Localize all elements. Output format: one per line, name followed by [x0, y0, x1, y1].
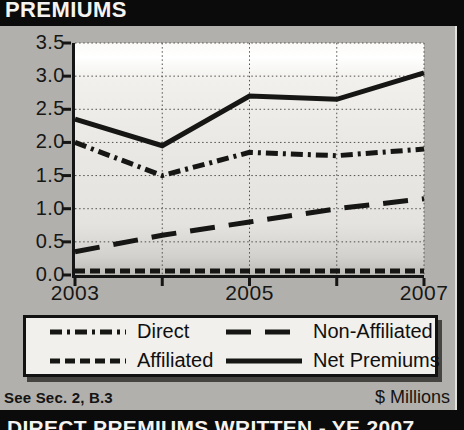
y-axis-labels: 0.00.51.01.52.02.53.03.5	[0, 43, 70, 278]
plot-area	[72, 43, 424, 278]
legend-item-affiliated: Affiliated	[26, 349, 222, 372]
y-tick-label: 2.5	[36, 97, 65, 120]
x-tick-label: 2007	[400, 281, 449, 305]
legend-label-affiliated: Affiliated	[137, 349, 213, 372]
scan-edge	[457, 0, 464, 430]
y-tick-label: 1.5	[36, 164, 65, 187]
top-title-bar: PREMIUMS	[0, 0, 464, 26]
y-tick-label: 2.0	[36, 130, 65, 153]
chart-legend: Direct Non-Affiliated Affiliated Net Pre…	[23, 315, 438, 377]
scanned-chart-page: PREMIUMS 0.00.51.01.52.02.53.03.5 200320…	[0, 0, 464, 430]
page-title: PREMIUMS	[5, 0, 127, 23]
affiliated-line-sample-icon	[48, 356, 128, 366]
legend-label-direct: Direct	[137, 320, 189, 343]
y-tick-label: 3.0	[36, 64, 65, 87]
y-tick-label: 3.5	[36, 31, 65, 54]
legend-label-net-premiums: Net Premiums	[313, 349, 440, 372]
x-axis-labels: 200320052007	[75, 281, 424, 305]
non-affiliated-line-sample-icon	[224, 327, 304, 337]
legend-item-direct: Direct	[26, 320, 222, 343]
direct-line-sample-icon	[48, 327, 128, 337]
x-tick-label: 2003	[51, 281, 100, 305]
units-label: $ Millions	[375, 387, 450, 408]
footnote: See Sec. 2, B.3	[4, 389, 113, 406]
y-tick-label: 1.0	[36, 197, 65, 220]
bottom-title: DIRECT PREMIUMS WRITTEN - YE 2007	[7, 416, 414, 430]
series-line-non-affiliated	[75, 199, 424, 252]
plot-svg	[75, 43, 424, 275]
net-premiums-line-sample-icon	[224, 356, 304, 366]
legend-item-net-premiums: Net Premiums	[222, 349, 440, 372]
bottom-title-bar: DIRECT PREMIUMS WRITTEN - YE 2007	[0, 410, 464, 430]
legend-label-non-affiliated: Non-Affiliated	[313, 320, 433, 343]
x-tick-label: 2005	[225, 281, 274, 305]
legend-item-non-affiliated: Non-Affiliated	[222, 320, 440, 343]
y-tick-label: 0.5	[36, 230, 65, 253]
